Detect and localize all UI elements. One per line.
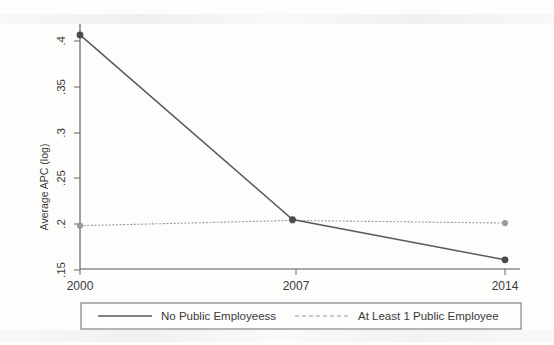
legend: No Public Employeess At Least 1 Public E… (81, 303, 521, 329)
x-tick-label-2014: 2014 (492, 279, 519, 293)
data-point-at-least-1-public-employee-2014 (502, 220, 508, 226)
data-point-no-public-employeess-2000 (77, 32, 84, 39)
y-tick-label-0.2: .2 (55, 219, 67, 229)
legend-label-no-public-employeess: No Public Employeess (161, 310, 276, 322)
y-tick-label-0.3: .3 (55, 128, 67, 138)
data-point-no-public-employeess-2007 (289, 216, 296, 223)
series-line-no-public-employeess (80, 35, 505, 260)
x-tick-label-2000: 2000 (67, 279, 94, 293)
data-point-no-public-employeess-2014 (502, 256, 509, 263)
y-tick-label-0.4: .4 (55, 36, 67, 46)
y-tick-label-0.35: .35 (55, 79, 67, 95)
data-point-at-least-1-public-employee-2000 (77, 223, 83, 229)
y-axis-title: Average APC (log) (38, 144, 50, 231)
legend-entry-no-public-employeess[interactable]: No Public Employeess (98, 310, 276, 322)
line-chart-svg: Average APC (log) .4 .35 .3 .25 .2 .15 2… (0, 0, 554, 345)
series-markers-no-public-employeess (77, 32, 509, 264)
legend-entry-at-least-1-public-employee[interactable]: At Least 1 Public Employee (295, 310, 499, 322)
legend-label-at-least-1-public-employee: At Least 1 Public Employee (358, 310, 499, 322)
chart-figure: Average APC (log) .4 .35 .3 .25 .2 .15 2… (0, 0, 554, 345)
y-tick-label-0.25: .25 (55, 170, 67, 186)
x-tick-label-2007: 2007 (283, 279, 310, 293)
y-tick-label-0.15: .15 (55, 262, 67, 278)
